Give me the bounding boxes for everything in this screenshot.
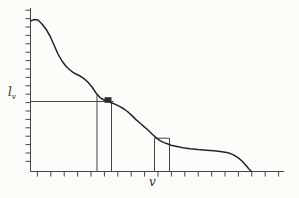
figure-svg	[0, 0, 299, 198]
x-axis-ticks	[37, 172, 278, 177]
curve	[31, 20, 252, 171]
y-axis-label-subscript: v	[12, 92, 16, 101]
figure: lv v	[0, 0, 299, 198]
x-axis-label: v	[149, 176, 156, 188]
y-axis-label: lv	[8, 86, 16, 101]
y-axis-ticks	[26, 10, 31, 161]
strips	[97, 94, 170, 172]
intersection-marker	[105, 97, 112, 103]
